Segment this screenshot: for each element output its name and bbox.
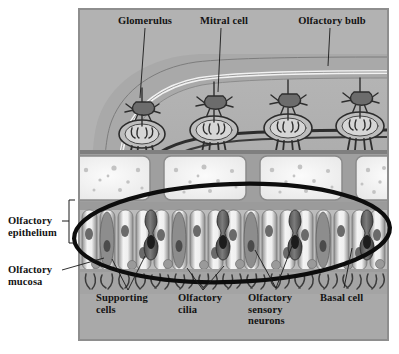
label-olfactory-cilia: Olfactory cilia bbox=[178, 292, 250, 315]
label-basal-cell: Basal cell bbox=[320, 292, 386, 304]
olfactory-epithelium-layer bbox=[80, 210, 387, 273]
label-olfactory-mucosa: Olfactory mucosa bbox=[8, 264, 70, 287]
label-olfactory-bulb: Olfactory bulb bbox=[286, 15, 378, 27]
label-glomerulus: Glomerulus bbox=[104, 15, 186, 27]
anatomy-illustration bbox=[80, 10, 387, 339]
label-olfactory-sensory-neurons: Olfactory sensory neurons bbox=[248, 292, 314, 327]
supporting-cells bbox=[82, 210, 385, 270]
figure-root: Glomerulus Mitral cell Olfactory bulb Ol… bbox=[0, 0, 399, 354]
bone-segments bbox=[80, 156, 387, 200]
cribriform-plate bbox=[80, 150, 387, 206]
label-mitral-cell: Mitral cell bbox=[186, 15, 262, 27]
label-supporting-cells: Supporting cells bbox=[96, 292, 172, 315]
label-olfactory-epithelium: Olfactory epithelium bbox=[8, 215, 74, 238]
olfactory-cilia-layer bbox=[80, 272, 387, 294]
